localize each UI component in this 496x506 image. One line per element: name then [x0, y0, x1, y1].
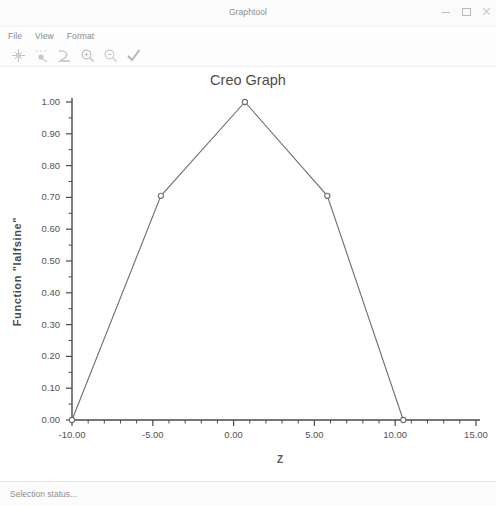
y-tick-label: 0.00	[24, 414, 60, 425]
x-tick-label: -5.00	[131, 429, 175, 440]
tool-bar	[0, 44, 496, 67]
y-tick-label: 0.40	[24, 287, 60, 298]
x-tick-label: 10.00	[373, 429, 417, 440]
window-title: Graphtool	[0, 7, 496, 17]
curve-icon[interactable]	[56, 47, 73, 64]
x-tick-label: 0.00	[212, 429, 256, 440]
checkmark-icon[interactable]	[125, 47, 142, 64]
pan-graph-icon[interactable]	[10, 47, 27, 64]
menu-item-view[interactable]: View	[35, 31, 54, 41]
y-tick-label: 0.70	[24, 191, 60, 202]
menu-item-file[interactable]: File	[8, 31, 22, 41]
y-tick-label: 0.30	[24, 319, 60, 330]
maximize-button[interactable]	[461, 6, 472, 17]
y-tick-label: 0.20	[24, 350, 60, 361]
chart-area: Creo Graph Function "lalfsine" Z 0.000.1…	[0, 67, 496, 481]
zoom-out-icon[interactable]	[102, 47, 119, 64]
y-tick-label: 0.80	[24, 160, 60, 171]
close-button[interactable]	[481, 6, 492, 17]
window-controls	[441, 6, 492, 17]
minimize-button[interactable]	[441, 6, 452, 17]
point-select-icon[interactable]	[33, 47, 50, 64]
plot-canvas	[0, 67, 496, 467]
status-text: Selection status...	[10, 489, 77, 499]
y-tick-label: 0.90	[24, 128, 60, 139]
y-tick-label: 0.10	[24, 382, 60, 393]
menu-bar: File View Format	[0, 27, 496, 44]
title-bar: Graphtool	[0, 0, 496, 27]
x-tick-label: -10.00	[50, 429, 94, 440]
status-bar: Selection status...	[0, 481, 496, 506]
x-tick-label: 5.00	[292, 429, 336, 440]
graphtool-window: Graphtool File View Format	[0, 0, 496, 506]
y-tick-label: 0.60	[24, 223, 60, 234]
menu-item-format[interactable]: Format	[67, 31, 95, 41]
zoom-in-icon[interactable]	[79, 47, 96, 64]
y-tick-label: 0.50	[24, 255, 60, 266]
y-tick-label: 1.00	[24, 96, 60, 107]
x-tick-label: 15.00	[454, 429, 496, 440]
